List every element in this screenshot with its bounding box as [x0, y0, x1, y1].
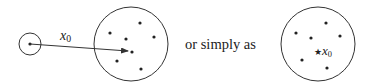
left-figure — [19, 7, 168, 81]
arrow-label: x0 — [60, 28, 71, 44]
star-label-sub: 0 — [328, 50, 332, 59]
star-point-label: ★x0 — [314, 43, 332, 59]
set-point-dot — [309, 36, 312, 39]
star-icon: ★ — [314, 47, 322, 57]
set-point-dot — [139, 67, 142, 70]
set-point-dot — [130, 50, 133, 53]
set-point-dot — [124, 37, 127, 40]
arrow-label-sub: 0 — [66, 33, 71, 44]
target-set-points — [108, 21, 155, 70]
set-point-dot — [138, 21, 141, 24]
set-point-dot — [325, 66, 328, 69]
diagram-svg — [0, 0, 368, 84]
mapping-arrow — [30, 44, 128, 51]
target-set-circle — [94, 7, 168, 81]
set-point-dot — [108, 31, 111, 34]
set-point-dot — [324, 21, 327, 24]
diagram-canvas: x0 or simply as ★x0 — [0, 0, 368, 84]
set-point-dot — [115, 59, 118, 62]
set-point-dot — [300, 58, 303, 61]
connector-text: or simply as — [185, 36, 256, 53]
set-point-dot — [152, 35, 155, 38]
set-point-dot — [338, 34, 341, 37]
set-point-dot — [294, 31, 297, 34]
